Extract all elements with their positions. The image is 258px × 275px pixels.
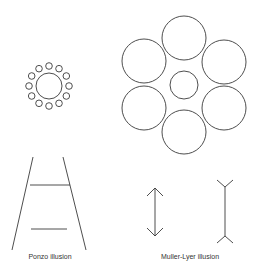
surround-circle bbox=[56, 65, 63, 72]
surround-circle bbox=[36, 100, 43, 107]
center-circle bbox=[36, 73, 62, 99]
surround-circle bbox=[26, 83, 33, 90]
surround-circle bbox=[28, 73, 35, 80]
surround-circle bbox=[63, 93, 70, 100]
muller-lyer-label: Muller-Lyer illusion bbox=[161, 253, 219, 260]
illusions-diagram bbox=[0, 0, 258, 275]
surround-circle bbox=[202, 86, 246, 130]
ponzo-label: Ponzo illusion bbox=[28, 253, 71, 260]
ponzo-illusion-figure bbox=[12, 157, 86, 250]
ponzo-rail bbox=[63, 157, 86, 250]
surround-circle bbox=[162, 16, 206, 60]
surround-circle bbox=[46, 103, 53, 110]
surround-circle bbox=[202, 40, 246, 84]
muller-lyer-figure bbox=[147, 180, 233, 243]
surround-circle bbox=[63, 73, 70, 80]
surround-circle bbox=[46, 63, 53, 70]
surround-circle bbox=[28, 93, 35, 100]
center-circle bbox=[170, 71, 198, 99]
ebbinghaus-large-surround bbox=[122, 16, 246, 154]
surround-circle bbox=[122, 39, 166, 83]
surround-circle bbox=[36, 65, 43, 72]
ponzo-rail bbox=[12, 157, 33, 250]
surround-circle bbox=[56, 100, 63, 107]
ebbinghaus-small-surround bbox=[26, 63, 73, 110]
surround-circle bbox=[122, 86, 166, 130]
surround-circle bbox=[162, 110, 206, 154]
arrow-fins-inward bbox=[147, 188, 163, 236]
arrow-fins-outward bbox=[217, 180, 233, 243]
surround-circle bbox=[66, 83, 73, 90]
